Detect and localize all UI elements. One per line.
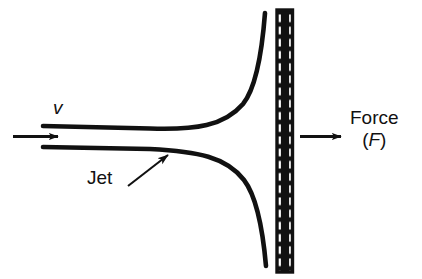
jet-upper-boundary: [43, 13, 265, 129]
force-symbol: (F): [350, 130, 399, 150]
jet-impingement-figure: v Jet Force (F): [0, 0, 422, 279]
force-label: Force (F): [350, 108, 399, 150]
force-symbol-letter: F: [368, 129, 380, 150]
force-paren-close: ): [380, 129, 386, 150]
force-word: Force: [350, 107, 399, 128]
plate-hatch-fill: [277, 10, 293, 272]
impingement-plate: [277, 10, 293, 272]
jet-leader-arrow: [128, 155, 168, 186]
velocity-label: v: [53, 98, 63, 118]
jet-label: Jet: [87, 168, 112, 188]
